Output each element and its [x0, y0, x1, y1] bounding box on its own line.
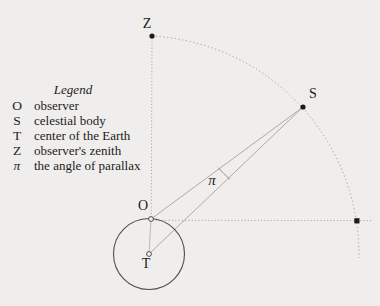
- legend-symbol: O: [8, 98, 26, 113]
- label-zenith: Z: [143, 17, 152, 31]
- legend-description: observer: [26, 98, 79, 113]
- label-parallax-angle: π: [208, 173, 216, 188]
- figure: Z S O T π Legend O observer S celestial …: [0, 0, 380, 306]
- legend-description: observer's zenith: [26, 143, 121, 158]
- point-observer: [149, 217, 154, 222]
- label-observer: O: [138, 199, 148, 213]
- label-earth-center: T: [142, 257, 151, 271]
- legend-item-earth-center: T center of the Earth: [8, 128, 158, 143]
- legend: Legend O observer S celestial body T cen…: [8, 82, 158, 173]
- observer-sightline: [151, 107, 303, 219]
- legend-description: celestial body: [26, 113, 106, 128]
- legend-item-observer: O observer: [8, 98, 158, 113]
- celestial-sphere-arc: [152, 36, 359, 258]
- legend-item-zenith: Z observer's zenith: [8, 143, 158, 158]
- legend-symbol: Z: [8, 143, 26, 158]
- legend-description: the angle of parallax: [26, 158, 140, 173]
- label-celestial-body: S: [309, 87, 317, 101]
- point-celestial-body: [300, 104, 305, 109]
- legend-symbol: S: [8, 113, 26, 128]
- legend-item-celestial-body: S celestial body: [8, 113, 158, 128]
- legend-symbol: π: [8, 158, 26, 173]
- parallax-angle-arc: [218, 168, 230, 180]
- geocentric-sightline: [149, 107, 303, 254]
- legend-title: Legend: [8, 82, 138, 97]
- point-horizon: [354, 218, 359, 223]
- point-zenith: [149, 33, 154, 38]
- zenith-axis-segment: [149, 219, 151, 254]
- legend-item-parallax-angle: π the angle of parallax: [8, 158, 158, 173]
- legend-description: center of the Earth: [26, 128, 130, 143]
- legend-symbol: T: [8, 128, 26, 143]
